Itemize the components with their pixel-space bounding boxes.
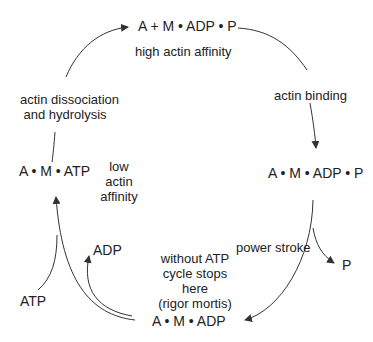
p-release-label: P [342,258,351,273]
rigor-label: without ATP cycle stops here (rigor mort… [150,251,240,311]
rigor-line-4: (rigor mortis) [150,296,240,311]
state-bottom: A • M • ADP [152,314,226,329]
dissociation-line-2: and hydrolysis [20,107,110,122]
arrow-actin-binding-lower [310,103,316,148]
state-right: A • M • ADP • P [268,166,363,181]
adp-release-label: ADP [93,243,122,258]
arrow-dissociation-upper [66,27,128,77]
actin-binding-label: actin binding [274,88,347,103]
dissociation-label: actin dissociation and hydrolysis [20,92,110,122]
low-affinity-line-3: affinity [98,189,140,204]
arrow-atp-in [38,235,57,290]
top-affinity-label: high actin affinity [135,44,232,59]
low-affinity-line-2: actin [98,174,140,189]
rigor-line-3: here [150,281,240,296]
low-affinity-line-1: low [98,159,140,174]
state-left: A • M • ATP [19,164,90,179]
power-stroke-label: power stroke [236,240,310,255]
arrow-actin-binding-upper [238,28,307,70]
arrow-p-release [313,228,334,263]
arrow-adp-release [87,256,132,316]
low-affinity-label: low actin affinity [98,159,140,204]
rigor-line-1: without ATP [150,251,240,266]
state-top: A + M • ADP • P [138,19,237,34]
arrow-dissociation-lower [52,132,55,162]
arrow-power-stroke [245,200,313,320]
arrow-atp-binding [56,197,135,320]
rigor-line-2: cycle stops [150,266,240,281]
atp-in-label: ATP [20,294,46,309]
dissociation-line-1: actin dissociation [20,92,110,107]
